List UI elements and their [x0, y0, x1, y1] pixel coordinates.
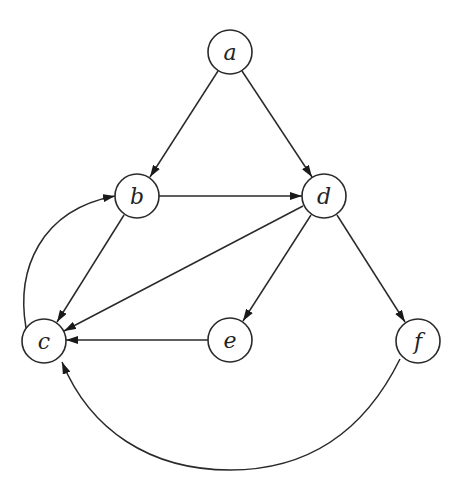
node-a-label: a	[223, 40, 236, 65]
node-a: a	[208, 30, 252, 74]
node-b: b	[115, 174, 159, 218]
edge-c-b	[24, 196, 115, 328]
node-d-label: d	[317, 184, 331, 209]
edge-a-b	[150, 71, 218, 177]
node-f: f	[396, 319, 440, 363]
edge-f-c	[62, 359, 400, 470]
node-e-label: e	[223, 328, 236, 353]
edge-d-c	[64, 206, 303, 331]
node-c: c	[22, 319, 66, 363]
node-d: d	[302, 174, 346, 218]
graph-diagram: a b c d e f	[0, 0, 464, 498]
edge-b-c	[57, 215, 124, 322]
edge-a-d	[242, 71, 312, 177]
node-c-label: c	[38, 329, 50, 354]
edge-d-e	[243, 215, 311, 321]
node-e: e	[208, 318, 252, 362]
node-b-label: b	[130, 184, 144, 209]
edge-d-f	[337, 215, 405, 322]
